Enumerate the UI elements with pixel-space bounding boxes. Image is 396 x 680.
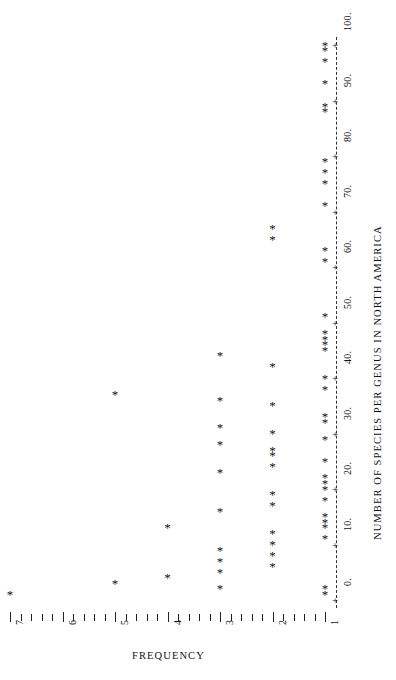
data-point-marker — [268, 446, 277, 455]
data-point-marker — [321, 312, 330, 321]
species-tick-label: 30. — [343, 406, 352, 419]
data-point-marker — [216, 396, 225, 405]
frequency-tick-major — [220, 612, 221, 622]
data-point-marker — [321, 435, 330, 444]
data-point-marker — [111, 390, 120, 399]
frequency-tick-minor — [105, 614, 106, 621]
species-tick-plus-icon: + — [332, 151, 338, 161]
data-point-marker — [163, 573, 172, 582]
scatter-plot-figure: +0.+10.+20.+30.+40.+50.+60.+70.+80.+90.+… — [0, 0, 396, 680]
frequency-tick-minor — [210, 614, 211, 621]
data-point-marker — [216, 568, 225, 577]
frequency-tick-minor — [252, 614, 253, 621]
data-point-marker — [268, 529, 277, 538]
data-point-marker — [216, 468, 225, 477]
species-tick-plus-icon: + — [332, 318, 338, 328]
frequency-tick-minor — [304, 614, 305, 621]
species-tick-plus-icon: + — [332, 373, 338, 383]
species-tick-plus-icon: + — [332, 96, 338, 106]
frequency-tick-major — [168, 612, 169, 622]
species-tick-plus-icon: + — [332, 429, 338, 439]
species-tick-label: 40. — [343, 351, 352, 364]
frequency-tick-minor — [178, 614, 179, 621]
data-point-marker — [321, 496, 330, 505]
data-point-marker — [216, 546, 225, 555]
data-point-marker — [321, 102, 330, 111]
data-point-marker — [268, 429, 277, 438]
data-point-marker — [321, 257, 330, 266]
frequency-tick-minor — [147, 614, 148, 621]
species-tick-label: 100. — [343, 12, 352, 31]
data-point-marker — [268, 501, 277, 510]
species-tick-plus-icon: + — [332, 540, 338, 550]
data-point-marker — [268, 224, 277, 233]
data-point-marker — [268, 362, 277, 371]
data-point-marker — [163, 523, 172, 532]
species-tick-label: 50. — [343, 295, 352, 308]
data-point-marker — [268, 462, 277, 471]
data-point-marker — [216, 351, 225, 360]
species-tick-label: 20. — [343, 462, 352, 475]
data-point-marker — [111, 579, 120, 588]
frequency-tick-minor — [94, 614, 95, 621]
species-tick-label: 90. — [343, 73, 352, 86]
frequency-tick-major — [325, 612, 326, 622]
data-point-marker — [268, 401, 277, 410]
data-point-marker — [216, 440, 225, 449]
data-point-marker — [268, 540, 277, 549]
frequency-tick-minor — [262, 614, 263, 621]
data-point-marker — [321, 512, 330, 521]
frequency-tick-minor — [241, 614, 242, 621]
data-point-marker — [216, 423, 225, 432]
frequency-tick-minor — [21, 614, 22, 621]
species-tick-label: 60. — [343, 240, 352, 253]
data-point-marker — [216, 584, 225, 593]
data-point-marker — [6, 590, 15, 599]
frequency-tick-minor — [315, 614, 316, 621]
frequency-tick-minor — [231, 614, 232, 621]
frequency-tick-major — [10, 612, 11, 622]
data-point-marker — [321, 41, 330, 50]
frequency-tick-minor — [199, 614, 200, 621]
frequency-tick-minor — [42, 614, 43, 621]
frequency-tick-major — [115, 612, 116, 622]
species-tick-plus-icon: + — [332, 207, 338, 217]
data-point-marker — [216, 507, 225, 516]
species-axis-title: NUMBER OF SPECIES PER GENUS IN NORTH AME… — [372, 225, 383, 540]
frequency-tick-label: 1 — [330, 620, 340, 625]
data-point-marker — [321, 168, 330, 177]
frequency-tick-minor — [52, 614, 53, 621]
frequency-axis-title: FREQUENCY — [132, 650, 205, 661]
data-point-marker — [216, 557, 225, 566]
frequency-tick-minor — [189, 614, 190, 621]
data-point-marker — [321, 473, 330, 482]
frequency-tick-minor — [157, 614, 158, 621]
species-tick-plus-icon: + — [332, 595, 338, 605]
species-tick-plus-icon: + — [332, 484, 338, 494]
data-point-marker — [321, 179, 330, 188]
data-point-marker — [268, 562, 277, 571]
data-point-marker — [321, 584, 330, 593]
species-tick-label: 70. — [343, 184, 352, 197]
data-point-marker — [321, 79, 330, 88]
frequency-tick-minor — [84, 614, 85, 621]
data-point-marker — [321, 412, 330, 421]
frequency-tick-major — [273, 612, 274, 622]
data-point-marker — [268, 235, 277, 244]
data-point-marker — [321, 385, 330, 394]
frequency-tick-minor — [294, 614, 295, 621]
species-tick-label: 0. — [343, 578, 352, 586]
species-tick-label: 10. — [343, 517, 352, 530]
frequency-tick-minor — [126, 614, 127, 621]
species-tick-label: 80. — [343, 129, 352, 142]
data-point-marker — [321, 457, 330, 466]
frequency-tick-minor — [136, 614, 137, 621]
frequency-tick-minor — [31, 614, 32, 621]
data-point-marker — [321, 246, 330, 255]
species-tick-plus-icon: + — [332, 262, 338, 272]
data-point-marker — [321, 374, 330, 383]
data-point-marker — [321, 329, 330, 338]
data-point-marker — [268, 551, 277, 560]
frequency-tick-major — [63, 612, 64, 622]
frequency-tick-minor — [73, 614, 74, 621]
